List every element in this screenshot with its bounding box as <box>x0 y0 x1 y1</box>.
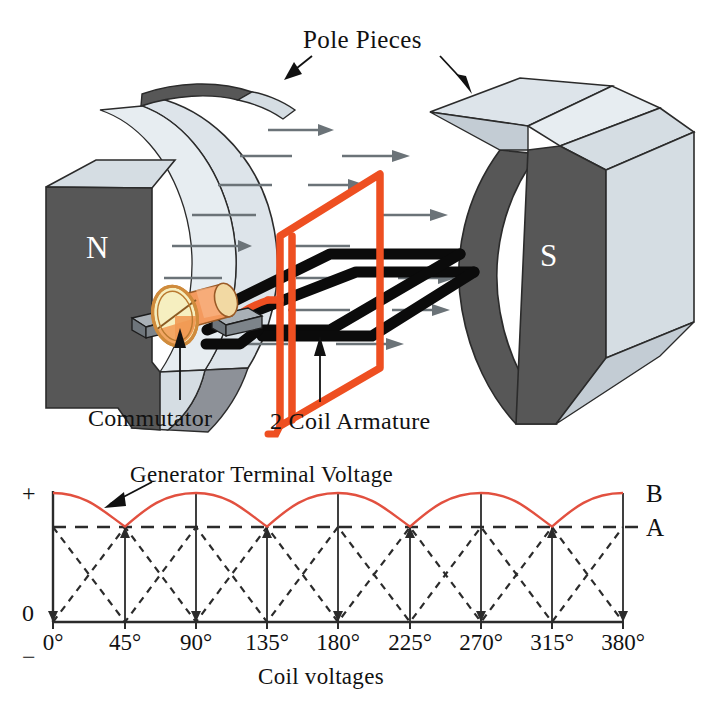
y-axis-plus-mark: + <box>22 480 36 507</box>
x-tick-label: 135° <box>236 630 298 656</box>
chart-x-axis-label: Coil voltages <box>258 664 384 690</box>
x-tick-label: 270° <box>450 630 512 656</box>
x-tick-label: 380° <box>592 630 654 656</box>
y-axis-zero-mark: 0 <box>22 600 34 627</box>
generator-voltage-label: Generator Terminal Voltage <box>130 462 393 488</box>
x-tick-label: 225° <box>379 630 441 656</box>
x-tick-label: 90° <box>165 630 227 656</box>
x-tick-label: 0° <box>22 630 84 656</box>
x-tick-label: 45° <box>94 630 156 656</box>
voltage-chart <box>0 0 717 726</box>
x-tick-label: 315° <box>521 630 583 656</box>
level-b-label: B <box>646 480 663 508</box>
level-a-label: A <box>646 514 664 542</box>
x-tick-label: 180° <box>307 630 369 656</box>
figure-root: #ccd5dc <box>0 0 717 726</box>
